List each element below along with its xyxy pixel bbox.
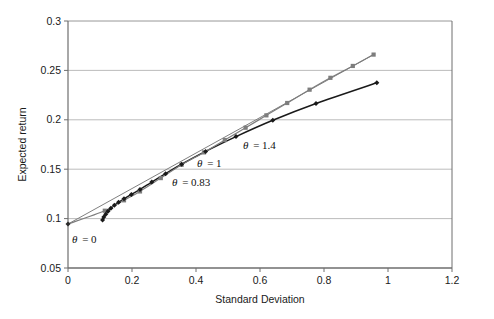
annotation-theta-value: = 1.4	[250, 139, 276, 151]
annotation-theta-1: θ = 1	[197, 157, 222, 169]
x-tick-label-4: 0.8	[317, 274, 332, 286]
chart-figure: 0.050.10.150.20.250.300.20.40.60.811.2St…	[0, 0, 494, 319]
data-point-upper	[351, 64, 355, 68]
annotation-theta-symbol: θ	[197, 157, 203, 169]
annotation-theta-14: θ = 1.4	[243, 139, 276, 151]
x-axis-title: Standard Deviation	[215, 293, 304, 305]
y-axis-title: Expected return	[16, 107, 28, 181]
data-point-lower	[314, 101, 319, 106]
y-tick-label-1: 0.1	[46, 212, 61, 224]
x-tick-label-1: 0.2	[125, 274, 140, 286]
annotation-theta-symbol: θ	[72, 233, 78, 245]
annotation-theta-symbol: θ	[172, 176, 178, 188]
data-point-upper	[328, 76, 332, 80]
y-tick-label-3: 0.2	[46, 113, 61, 125]
x-tick-label-6: 1.2	[445, 274, 460, 286]
y-tick-label-4: 0.25	[41, 64, 62, 76]
series-capital-market-line	[68, 55, 374, 224]
data-point-upper	[285, 101, 289, 105]
data-point-upper	[223, 138, 227, 142]
annotation-theta-0: θ = 0	[72, 233, 97, 245]
x-tick-label-3: 0.6	[253, 274, 268, 286]
data-point-lower	[270, 118, 275, 123]
x-tick-label-5: 1	[385, 274, 391, 286]
x-tick-label-0: 0	[65, 274, 71, 286]
data-point-upper	[372, 52, 376, 56]
x-tick-label-2: 0.4	[189, 274, 204, 286]
annotation-theta-symbol: θ	[243, 139, 249, 151]
y-tick-label-0: 0.05	[41, 262, 62, 274]
data-point-upper	[244, 126, 248, 130]
data-point-upper	[264, 113, 268, 117]
annotation-theta-value: = 0.83	[179, 176, 210, 188]
annotation-theta-value: = 1	[204, 157, 221, 169]
y-tick-label-5: 0.3	[46, 15, 61, 27]
data-point-upper	[159, 176, 163, 180]
annotation-theta-value: = 0	[79, 233, 97, 245]
y-tick-label-2: 0.15	[41, 163, 62, 175]
data-point-lower	[374, 80, 379, 85]
chart-canvas: 0.050.10.150.20.250.300.20.40.60.811.2St…	[0, 0, 494, 319]
data-point-upper	[308, 88, 312, 92]
annotation-theta-083: θ = 0.83	[172, 176, 211, 188]
data-point-risk-free	[66, 222, 71, 227]
series-constrained-frontier-lower	[103, 83, 377, 220]
